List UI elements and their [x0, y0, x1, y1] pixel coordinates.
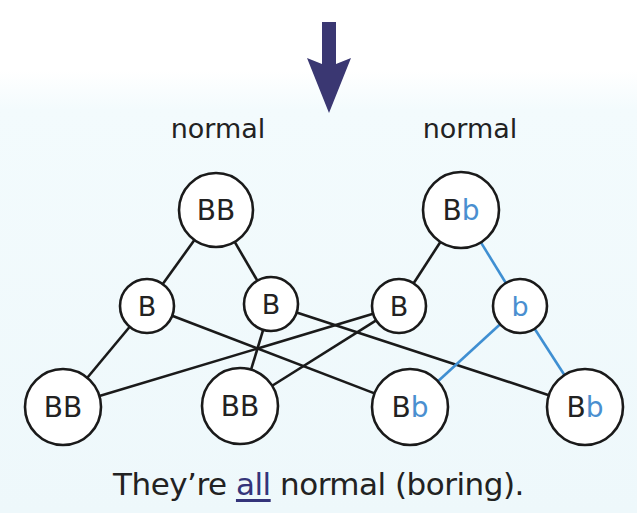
edge-gamete3-offspring3: [535, 329, 565, 375]
gamete-node-3-genotype: b: [511, 291, 528, 322]
caption-suffix: normal (boring).: [271, 466, 524, 502]
edge-parent1-gamete3: [481, 242, 506, 283]
offspring-node-0: BB: [25, 369, 101, 445]
gamete-node-0: B: [120, 279, 174, 333]
gamete-node-1: B: [244, 277, 298, 331]
offspring-node-2-genotype: Bb: [392, 391, 429, 424]
offspring-node-1-genotype: BB: [221, 390, 259, 423]
offspring-node-0-genotype: BB: [44, 391, 82, 424]
gamete-node-2: B: [372, 279, 426, 333]
offspring-node-1: BB: [202, 368, 278, 444]
edge-gamete3-offspring2: [438, 324, 500, 381]
edge-parent1-gamete2: [414, 242, 441, 283]
down-arrow-icon: [307, 22, 351, 113]
inheritance-diagram: normalnormal BBBbBBBbBBBBBbBb: [0, 0, 637, 513]
parent-node-1: Bb: [423, 172, 499, 248]
punnett-cross-diagram: normalnormal BBBbBBBbBBBBBbBb: [0, 0, 637, 513]
edge-gamete0-offspring0: [87, 327, 129, 378]
edge-parent0-gamete1: [235, 242, 258, 281]
parent-labels: normalnormal: [171, 113, 518, 144]
gamete-node-1-genotype: B: [262, 289, 281, 320]
offspring-node-3-genotype: Bb: [567, 391, 604, 424]
parent-node-1-genotype: Bb: [443, 194, 480, 227]
parent-label-1: normal: [423, 113, 518, 144]
edge-parent0-gamete0: [163, 240, 195, 284]
down-arrow-shape: [307, 22, 351, 113]
parent-node-0-genotype: BB: [197, 194, 235, 227]
offspring-node-3: Bb: [547, 369, 623, 445]
gamete-node-0-genotype: B: [138, 291, 157, 322]
caption: They’re all normal (boring).: [0, 466, 637, 502]
genotype-nodes: BBBbBBBbBBBBBbBb: [25, 172, 623, 445]
gamete-node-3: b: [493, 279, 547, 333]
offspring-node-2: Bb: [372, 369, 448, 445]
gamete-node-2-genotype: B: [390, 291, 409, 322]
caption-prefix: They’re: [113, 466, 236, 502]
caption-emphasis: all: [236, 466, 271, 502]
edge-gamete2-offspring1: [272, 320, 376, 385]
parent-label-0: normal: [171, 113, 266, 144]
parent-node-0: BB: [179, 173, 253, 247]
